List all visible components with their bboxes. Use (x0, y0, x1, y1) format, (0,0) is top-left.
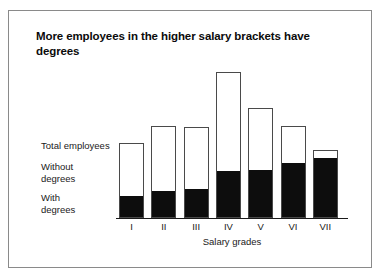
bar-VI-with-degrees-segment (282, 163, 305, 217)
bar-IV (216, 72, 241, 218)
bar-III-with-degrees-segment (185, 189, 208, 217)
x-axis-line (116, 218, 348, 219)
x-tick-label-II: II (147, 221, 181, 232)
bar-V-with-degrees-segment (249, 170, 272, 217)
x-tick-label-III: III (179, 221, 213, 232)
bar-VI (281, 126, 306, 218)
x-tick-label-IV: IV (211, 221, 245, 232)
x-tick-label-VII: VII (308, 221, 342, 232)
x-tick-label-VI: VI (276, 221, 310, 232)
bar-V (248, 108, 273, 218)
bar-IV-with-degrees-segment (217, 171, 240, 217)
bar-II-with-degrees-segment (152, 191, 175, 217)
bar-I-with-degrees-segment (120, 196, 143, 217)
bar-III (184, 127, 209, 218)
x-tick-label-I: I (115, 221, 149, 232)
bar-VII-with-degrees-segment (314, 158, 337, 217)
bar-II (151, 126, 176, 218)
x-tick-label-V: V (244, 221, 278, 232)
bar-I (119, 143, 144, 218)
x-axis-title: Salary grades (118, 236, 346, 247)
chart-screenshot: More employees in the higher salary brac… (0, 0, 381, 278)
bar-VII (313, 150, 338, 218)
